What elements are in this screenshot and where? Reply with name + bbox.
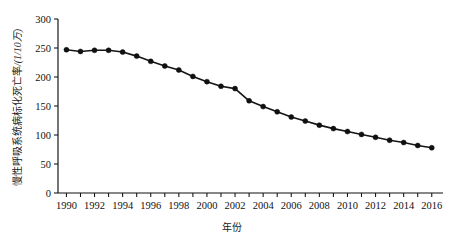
chart-figure: 慢性呼吸系统病标化死亡率/(1/10万) 050100150200250300 … <box>0 0 463 242</box>
chart-plot-area: 050100150200250300 199019921994199619982… <box>0 0 463 242</box>
data-point <box>289 115 294 120</box>
data-point <box>204 79 209 84</box>
x-tick-label: 1992 <box>84 200 105 211</box>
x-tick-label: 2000 <box>196 200 217 211</box>
data-point <box>345 129 350 134</box>
y-tick-label: 250 <box>35 43 51 54</box>
x-tick-label: 2014 <box>393 200 415 211</box>
data-point <box>429 145 434 150</box>
data-series-markers <box>64 47 434 150</box>
y-tick-label: 200 <box>35 72 51 83</box>
data-point <box>303 119 308 124</box>
data-point <box>401 140 406 145</box>
data-point <box>373 135 378 140</box>
data-point <box>190 74 195 79</box>
y-tick-label: 150 <box>35 101 51 112</box>
data-point <box>78 49 83 54</box>
x-tick-label: 2012 <box>365 200 386 211</box>
data-point <box>387 138 392 143</box>
data-point <box>415 143 420 148</box>
data-point <box>134 54 139 59</box>
data-point <box>359 132 364 137</box>
y-axis-ticks: 050100150200250300 <box>35 14 58 199</box>
x-tick-label: 1990 <box>56 200 77 211</box>
y-tick-label: 100 <box>35 130 51 141</box>
x-tick-label: 1998 <box>168 200 189 211</box>
data-point <box>317 123 322 128</box>
x-axis-ticks: 1990199219941996199820002002200420062008… <box>56 193 442 211</box>
x-tick-label: 2010 <box>337 200 358 211</box>
x-tick-label: 1994 <box>112 200 134 211</box>
data-point <box>331 126 336 131</box>
y-tick-label: 0 <box>46 188 51 199</box>
data-point <box>176 68 181 73</box>
x-tick-label: 2016 <box>421 200 442 211</box>
x-tick-label: 2006 <box>281 200 302 211</box>
data-point <box>162 63 167 68</box>
data-point <box>92 48 97 53</box>
data-point <box>148 59 153 64</box>
y-tick-label: 300 <box>35 14 51 25</box>
x-tick-label: 1996 <box>140 200 161 211</box>
data-point <box>261 104 266 109</box>
data-point <box>120 50 125 55</box>
data-point <box>247 98 252 103</box>
data-point <box>64 47 69 52</box>
x-axis-label: 年份 <box>0 219 463 234</box>
data-point <box>233 86 238 91</box>
data-point <box>275 109 280 114</box>
data-point <box>218 84 223 89</box>
x-tick-label: 2004 <box>253 200 275 211</box>
x-tick-label: 2008 <box>309 200 330 211</box>
y-tick-label: 50 <box>41 159 52 170</box>
x-tick-label: 2002 <box>225 200 246 211</box>
data-point <box>106 48 111 53</box>
